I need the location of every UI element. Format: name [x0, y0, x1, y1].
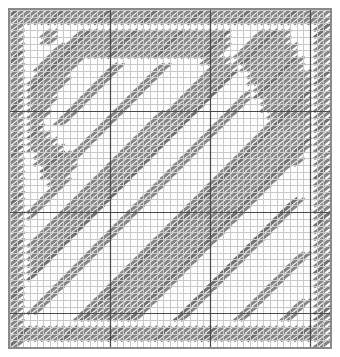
chart-frame	[8, 8, 332, 349]
chart-page: Diagonal Stitch Pattern Chart stitch no …	[0, 0, 340, 357]
stitch-pattern-canvas	[10, 10, 330, 347]
chart-grid-area	[10, 10, 330, 347]
